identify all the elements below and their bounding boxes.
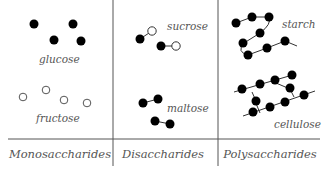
glucose-icon	[30, 20, 86, 46]
cellulose-icon	[234, 71, 315, 117]
starch-label: starch	[282, 18, 316, 30]
carbohydrate-diagram: glucose fructose sucrose maltose	[0, 0, 327, 175]
fructose-icon	[19, 86, 91, 107]
cellulose-label: cellulose	[274, 118, 321, 130]
category-monosaccharides: Monosaccharides	[8, 147, 111, 161]
category-polysaccharides: Polysaccharides	[222, 147, 317, 161]
fructose-label: fructose	[35, 112, 80, 124]
sucrose-label: sucrose	[167, 20, 208, 32]
category-disaccharides: Disaccharides	[121, 147, 204, 161]
maltose-label: maltose	[167, 102, 209, 114]
glucose-label: glucose	[39, 53, 80, 65]
